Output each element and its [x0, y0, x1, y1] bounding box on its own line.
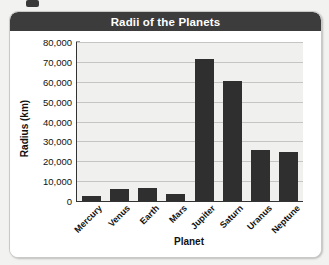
bar-series	[77, 42, 303, 201]
top-edge-artifact	[26, 0, 39, 7]
x-axis-title: Planet	[76, 236, 302, 247]
y-tick-label: 10,000	[43, 176, 72, 187]
y-tick-label: 50,000	[43, 96, 72, 107]
bar-mercury	[82, 196, 101, 201]
y-tick-label: 70,000	[43, 56, 72, 67]
y-tick-label: 0	[67, 196, 72, 207]
y-tick-label: 80,000	[43, 37, 72, 48]
plot-area	[76, 42, 303, 202]
bar-saturn	[223, 81, 242, 201]
x-tick-label-saturn: Saturn	[218, 203, 245, 230]
x-tick-label-mercury: Mercury	[72, 203, 104, 235]
x-tick-label-jupiter: Jupiter	[189, 203, 217, 231]
x-tick-label-neptune: Neptune	[269, 203, 302, 236]
bar-mars	[166, 194, 185, 201]
bar-uranus	[251, 150, 270, 201]
bar-neptune	[279, 152, 298, 201]
y-tick-label: 60,000	[43, 76, 72, 87]
y-axis-title: Radius (km)	[19, 94, 30, 164]
chart-plot-wrapper: Radius (km) 010,00020,00030,00040,00050,…	[10, 31, 321, 257]
y-axis-tick-labels: 010,00020,00030,00040,00050,00060,00070,…	[32, 31, 76, 201]
chart-card: Radii of the Planets Radius (km) 010,000…	[9, 11, 322, 258]
x-tick-label-venus: Venus	[107, 203, 133, 229]
y-tick-label: 40,000	[43, 116, 72, 127]
bar-jupiter	[195, 59, 214, 201]
bar-earth	[138, 188, 157, 201]
x-tick-label-earth: Earth	[137, 203, 160, 226]
x-tick-label-mars: Mars	[167, 203, 189, 225]
chart-title: Radii of the Planets	[111, 16, 221, 28]
chart-title-bar: Radii of the Planets	[10, 12, 321, 31]
y-tick-label: 30,000	[43, 136, 72, 147]
y-tick-label: 20,000	[43, 156, 72, 167]
bar-venus	[110, 189, 129, 201]
